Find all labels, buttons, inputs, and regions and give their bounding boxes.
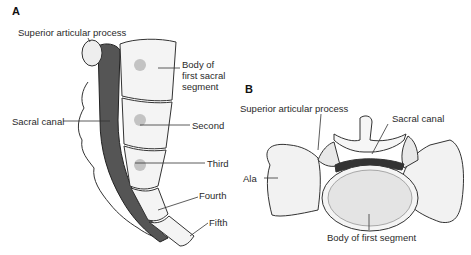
label-a-third: Third: [207, 158, 229, 169]
sacrum-illustration: [0, 0, 471, 255]
label-b-ala: Ala: [243, 173, 257, 184]
label-a-fifth: Fifth: [209, 217, 227, 228]
body-first-segment-shape: [120, 39, 176, 101]
superior-articular-process-shape: [82, 40, 102, 66]
superior-view-sacrum-drawing: [264, 114, 464, 231]
label-a-sacral-canal: Sacral canal: [12, 116, 64, 127]
label-b-sacral-canal: Sacral canal: [392, 113, 444, 124]
label-a-second: Second: [192, 120, 224, 131]
panel-label-a: A: [12, 5, 20, 17]
label-a-body-first-line3: segment: [182, 81, 218, 92]
label-a-superior-articular-process: Superior articular process: [18, 27, 126, 38]
label-a-body-first-line1: Body of: [182, 59, 214, 70]
label-a-body-first-line2: first sacral: [182, 70, 225, 81]
label-b-superior-articular-process: Superior articular process: [240, 103, 348, 114]
left-ala-shape: [267, 144, 320, 216]
label-b-body-first-segment: Body of first segment: [327, 232, 416, 243]
body-second-segment-shape: [122, 98, 172, 149]
label-a-fourth: Fourth: [199, 190, 226, 201]
panel-label-b: B: [245, 83, 253, 95]
